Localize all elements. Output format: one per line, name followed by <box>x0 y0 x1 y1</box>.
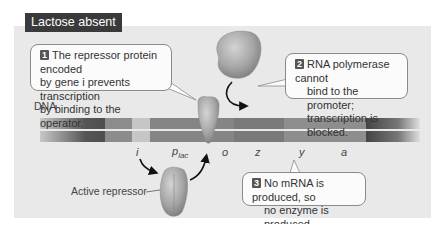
bound-repressor-icon <box>198 97 219 144</box>
active-repressor-label: Active repressor <box>71 185 147 197</box>
curved-arrow-icon <box>190 158 206 180</box>
step-badge-2: 2 <box>295 59 304 69</box>
callout-1: 1The repressor protein encoded by gene i… <box>30 44 172 91</box>
rna-polymerase-icon <box>217 31 261 78</box>
curved-arrow-icon <box>227 82 244 106</box>
curved-arrow-icon <box>140 159 154 172</box>
step-badge-1: 1 <box>40 50 49 60</box>
callout-2: 2RNA polymerase cannot bind to the promo… <box>285 53 408 99</box>
callout-3: 3No mRNA is produced, so no enzyme is pr… <box>242 172 366 206</box>
step-badge-3: 3 <box>252 178 261 188</box>
